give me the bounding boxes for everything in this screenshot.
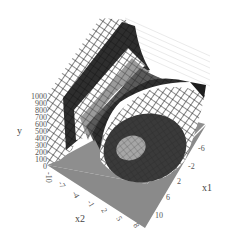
x1-tick: -6 xyxy=(198,144,205,153)
x2-tick: -10 xyxy=(44,172,53,183)
x2-tick: -7 xyxy=(56,180,67,190)
x2-tick: 5 xyxy=(114,215,124,223)
x2-tick: 2 xyxy=(99,207,109,215)
y-tick: 0 xyxy=(43,162,47,171)
x2-axis-label: x2 xyxy=(75,213,85,224)
y-axis-ticks: 1000 900 800 700 600 500 400 300 200 100… xyxy=(31,92,47,171)
x2-tick: -1 xyxy=(85,199,96,209)
x1-axis-label: x1 xyxy=(202,182,212,193)
x2-tick: 8 xyxy=(131,222,141,230)
x2-tick: -4 xyxy=(70,190,81,200)
surface-plot: 1000 900 800 700 600 500 400 300 200 100… xyxy=(0,0,227,234)
x1-tick: 2 xyxy=(177,177,181,186)
x1-tick: -2 xyxy=(188,162,195,171)
x1-tick: 10 xyxy=(155,211,163,220)
y-axis-label: y xyxy=(17,125,22,136)
x1-tick: 6 xyxy=(166,193,170,202)
